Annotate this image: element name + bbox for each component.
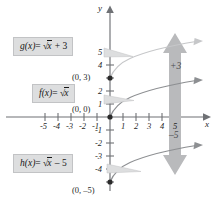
x-tick-neg2: -2 — [79, 122, 86, 131]
y-tick-neg3: -3 — [95, 152, 102, 161]
curve-h — [110, 142, 203, 182]
x-tick-4: 4 — [160, 122, 164, 131]
y-tick-1: 1 — [98, 100, 102, 109]
x-tick-2: 2 — [134, 122, 138, 131]
leader-line-f — [104, 95, 134, 104]
y-tick-5: 5 — [98, 48, 102, 57]
x-tick-neg3: -3 — [66, 122, 73, 131]
vertical-shift-graph-figure: y x -5 -4 -3 -2 -1 1 2 3 4 5 5 4 2 1 -1 … — [0, 0, 220, 197]
callout-g-tail: + 3 — [52, 41, 67, 51]
point-dot-0-3 — [107, 75, 112, 80]
y-tick-neg4: -4 — [95, 165, 102, 174]
y-tick-neg1: -1 — [95, 126, 102, 135]
curve-g — [110, 38, 203, 78]
callout-f-eq: = — [52, 88, 60, 98]
callout-h: h(x)= √x – 5 — [13, 154, 73, 173]
callout-h-tail: – 5 — [52, 158, 66, 168]
point-dot-0-0 — [107, 114, 112, 119]
point-label-0-0: (0, 0) — [72, 105, 90, 114]
x-axis-label: x — [205, 120, 209, 129]
callout-f-fn: f(x) — [39, 88, 52, 98]
x-tick-1: 1 — [121, 122, 125, 131]
y-axis-label: y — [98, 4, 102, 13]
x-tick-neg4: -4 — [53, 122, 60, 131]
y-tick-4: 4 — [98, 61, 102, 70]
callout-g: g(x)= √x + 3 — [13, 37, 73, 56]
leader-line-g — [104, 48, 133, 57]
callout-h-eq: = — [35, 158, 43, 168]
curve-f — [110, 77, 203, 117]
point-dot-0-neg5 — [107, 179, 112, 184]
x-tick-neg5: -5 — [40, 122, 47, 131]
callout-g-fn: g(x) — [20, 41, 35, 51]
callout-h-fn: h(x) — [20, 158, 35, 168]
shift-arrow-up-label: +3 — [170, 62, 181, 72]
callout-g-eq: = — [35, 41, 43, 51]
y-tick-neg2: -2 — [95, 139, 102, 148]
callout-f: f(x)= √x — [32, 84, 75, 103]
point-label-0-neg5: (0, –5) — [72, 186, 95, 195]
shift-arrow-down-label: –5 — [169, 131, 179, 141]
point-label-0-3: (0, 3) — [72, 73, 90, 82]
x-tick-3: 3 — [147, 122, 151, 131]
y-tick-2: 2 — [98, 87, 102, 96]
callout-f-radicand: x — [64, 87, 69, 98]
